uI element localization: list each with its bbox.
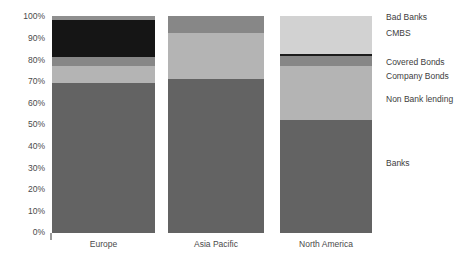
bar-segment-non-bank-lending[interactable] [168,33,264,79]
bar-asia-pacific[interactable] [168,16,264,233]
y-axis-tick-label: 90% [28,34,45,43]
x-axis-label-europe: Europe [52,240,155,249]
bar-segment-banks[interactable] [168,79,264,233]
bar-segment-non-bank-lending[interactable] [52,66,155,83]
legend-item-bad-banks[interactable]: Bad Banks [386,13,427,22]
y-axis-tick-label: 100% [23,12,45,21]
bar-europe[interactable] [52,16,155,233]
y-axis-baseline-tick [50,233,52,240]
bar-segment-company-bonds[interactable] [280,56,372,66]
bar-segment-cmbs[interactable] [52,20,155,57]
y-axis-tick-label: 0% [33,228,45,237]
y-axis-tick-label: 20% [28,185,45,194]
legend-item-covered-bonds[interactable]: Covered Bonds [386,58,445,67]
bar-segment-banks[interactable] [280,120,372,233]
y-axis-tick-label: 70% [28,77,45,86]
x-axis-label-asia-pacific: Asia Pacific [168,240,264,249]
y-axis-tick-label: 60% [28,99,45,108]
legend: Bad BanksCMBSCovered BondsCompany BondsN… [386,0,469,260]
bar-segment-company-bonds[interactable] [52,57,155,66]
y-axis-tick-label: 40% [28,142,45,151]
y-axis-tick-label: 30% [28,164,45,173]
bar-segment-non-bank-lending[interactable] [280,66,372,120]
stacked-bar-chart: 100%90%80%70%60%50%40%30%20%10%0% Europe… [0,0,469,260]
bar-segment-banks[interactable] [52,83,155,233]
bar-north-america[interactable] [280,16,372,233]
x-axis-label-north-america: North America [280,240,372,249]
legend-item-non-bank-lending[interactable]: Non Bank lending [386,95,453,104]
legend-item-banks[interactable]: Banks [386,159,410,168]
y-axis-tick-label: 80% [28,56,45,65]
bar-segment-cmbs[interactable] [280,16,372,54]
legend-item-cmbs[interactable]: CMBS [386,29,411,38]
y-axis-tick-label: 50% [28,120,45,129]
legend-item-company-bonds[interactable]: Company Bonds [386,72,449,81]
y-axis-tick-label: 10% [28,207,45,216]
bar-segment-company-bonds[interactable] [168,16,264,33]
plot-area [52,16,372,233]
y-axis: 100%90%80%70%60%50%40%30%20%10%0% [0,0,52,260]
